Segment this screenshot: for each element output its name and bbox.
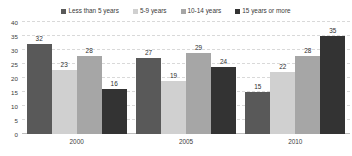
bar-group: 27192924 [131,22,240,134]
bar-value-label: 22 [279,63,286,71]
legend-item[interactable]: 15 years or more [235,7,290,15]
bar[interactable]: 19 [161,81,186,134]
bar-group: 15222835 [241,22,350,134]
bar[interactable]: 16 [102,89,127,134]
y-axis-tick-label: 40 [0,19,18,26]
bar-slot: 24 [211,22,236,134]
legend-item[interactable]: 5-9 years [133,7,167,15]
y-axis-tick-label: 0 [0,131,18,138]
bar[interactable]: 28 [77,56,102,134]
y-axis-tick-label: 10 [0,103,18,110]
bar[interactable]: 28 [295,56,320,134]
bar-value-label: 15 [254,83,261,91]
bar-slot: 27 [136,22,161,134]
bar[interactable]: 35 [320,36,345,134]
legend-label: 10-14 years [188,7,222,15]
bar-slot: 23 [52,22,77,134]
bar-groups: 322328162719292415222835 [22,22,350,134]
x-axis-tick-label: 2005 [131,136,240,150]
bar[interactable]: 22 [270,72,295,134]
bar-slot: 22 [270,22,295,134]
x-axis-tick-label: 2000 [22,136,131,150]
legend-swatch-icon [61,9,66,14]
bar-value-label: 28 [86,47,93,55]
bar-value-label: 35 [329,27,336,35]
legend-swatch-icon [181,9,186,14]
bar-slot: 28 [295,22,320,134]
bar[interactable]: 29 [186,53,211,134]
y-axis-tick-label: 5 [0,117,18,124]
bar-value-label: 29 [195,44,202,52]
y-axis-tick-label: 25 [0,61,18,68]
x-axis-tick-labels: 200020052010 [22,136,350,150]
bar[interactable]: 15 [245,92,270,134]
y-axis-tick-label: 35 [0,33,18,40]
chart-legend: Less than 5 years5-9 years10-14 years15 … [0,4,352,18]
bar[interactable]: 32 [27,44,52,134]
bar-slot: 19 [161,22,186,134]
bar-slot: 32 [27,22,52,134]
bar-slot: 29 [186,22,211,134]
legend-label: 15 years or more [242,7,290,15]
y-axis-tick-label: 15 [0,89,18,96]
bar-slot: 16 [102,22,127,134]
y-axis-tick-label: 30 [0,47,18,54]
legend-label: 5-9 years [140,7,167,15]
legend-item[interactable]: Less than 5 years [61,7,118,15]
bar[interactable]: 23 [52,70,77,134]
bar-value-label: 16 [111,80,118,88]
y-axis-tick-label: 20 [0,75,18,82]
bar-slot: 15 [245,22,270,134]
bar-value-label: 23 [61,61,68,69]
plot-area: 0510152025303540 32232816271929241522283… [22,22,350,134]
bar-value-label: 24 [220,58,227,66]
bar-chart: Less than 5 years5-9 years10-14 years15 … [0,0,352,156]
bar-value-label: 19 [170,72,177,80]
legend-swatch-icon [235,9,240,14]
bar-value-label: 27 [145,49,152,57]
x-axis-tick-label: 2010 [241,136,350,150]
bar[interactable]: 27 [136,58,161,134]
bar-slot: 35 [320,22,345,134]
bar-slot: 28 [77,22,102,134]
legend-item[interactable]: 10-14 years [181,7,222,15]
bar-value-label: 28 [304,47,311,55]
bar-group: 32232816 [22,22,131,134]
bar[interactable]: 24 [211,67,236,134]
bar-value-label: 32 [36,35,43,43]
legend-label: Less than 5 years [68,7,118,15]
legend-swatch-icon [133,9,138,14]
